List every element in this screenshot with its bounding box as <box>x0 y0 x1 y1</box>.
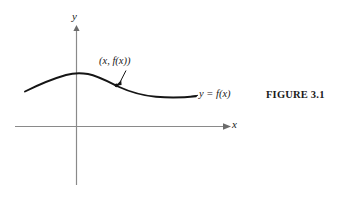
y-axis-arrowhead <box>73 25 79 31</box>
figure-caption: FIGURE 3.1 <box>266 90 325 101</box>
figure-container: y x (x, f(x)) y = f(x) FIGURE 3.1 <box>0 0 341 197</box>
x-axis-label: x <box>232 119 237 130</box>
x-axis-arrowhead <box>223 123 231 130</box>
curve-point-label: (x, f(x)) <box>99 56 130 67</box>
point-leader-arrowhead <box>116 80 122 86</box>
function-curve <box>25 73 196 97</box>
function-equation-label: y = f(x) <box>199 89 231 100</box>
y-axis-label: y <box>72 11 77 22</box>
